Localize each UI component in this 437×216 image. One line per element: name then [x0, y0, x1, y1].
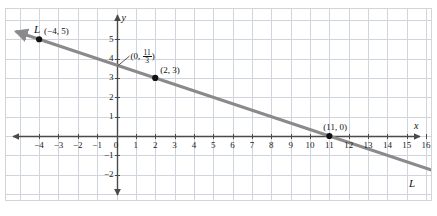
x-tick-label: 2	[148, 140, 162, 150]
y-tick-label: 4	[100, 53, 114, 63]
line-label-bottom-right: L	[409, 177, 415, 189]
line-label-top-left: L	[34, 23, 40, 35]
y-intercept-open-paren: (0,	[131, 51, 143, 61]
plot-frame: −4−3−2−1012345678910111213141516 54321−1…	[5, 8, 432, 201]
x-tick-label: 9	[284, 140, 298, 150]
y-tick-label: −2	[100, 169, 114, 179]
y-tick-label: 2	[100, 92, 114, 102]
y-tick-label: 3	[100, 72, 114, 82]
y-tick-label: −1	[100, 150, 114, 160]
x-tick-label: −2	[71, 140, 85, 150]
x-tick-label: 8	[264, 140, 278, 150]
y-axis-label: y	[122, 12, 126, 23]
y-intercept-fraction: 113	[143, 49, 152, 65]
coordinate-plane-figure: −4−3−2−1012345678910111213141516 54321−1…	[0, 0, 437, 216]
data-point-marker	[36, 36, 42, 42]
data-point-marker	[152, 75, 158, 81]
x-tick-label: −1	[90, 140, 104, 150]
y-intercept-close-paren: )	[152, 51, 155, 61]
point-label-11-0: (11, 0)	[323, 122, 347, 132]
x-tick-label: 5	[206, 140, 220, 150]
point-label-2-3: (2, 3)	[160, 65, 180, 75]
x-tick-label: 16	[419, 140, 432, 150]
line-L-segment	[16, 32, 432, 175]
x-tick-label: 1	[129, 140, 143, 150]
line-L	[6, 9, 432, 201]
point-label-y-intercept: (0, 113)	[131, 49, 155, 65]
x-tick-label: 3	[168, 140, 182, 150]
y-tick-label: 1	[100, 111, 114, 121]
point-label-neg4-5: (−4, 5)	[44, 26, 69, 36]
fraction-denominator: 3	[143, 57, 152, 65]
y-tick-label: 5	[100, 34, 114, 44]
y-intercept-leader	[118, 56, 130, 66]
x-tick-label: 15	[400, 140, 414, 150]
x-tick-label: 14	[380, 140, 394, 150]
x-tick-label: 0	[109, 140, 123, 150]
data-point-marker	[326, 133, 332, 139]
x-tick-label: 7	[245, 140, 259, 150]
x-tick-label: 11	[322, 140, 336, 150]
x-tick-label: 4	[187, 140, 201, 150]
x-tick-label: 6	[226, 140, 240, 150]
x-tick-label: −4	[32, 140, 46, 150]
x-axis-label: x	[414, 120, 418, 131]
x-tick-label: 12	[342, 140, 356, 150]
x-tick-label: 13	[361, 140, 375, 150]
x-tick-label: −3	[51, 140, 65, 150]
x-tick-label: 10	[303, 140, 317, 150]
